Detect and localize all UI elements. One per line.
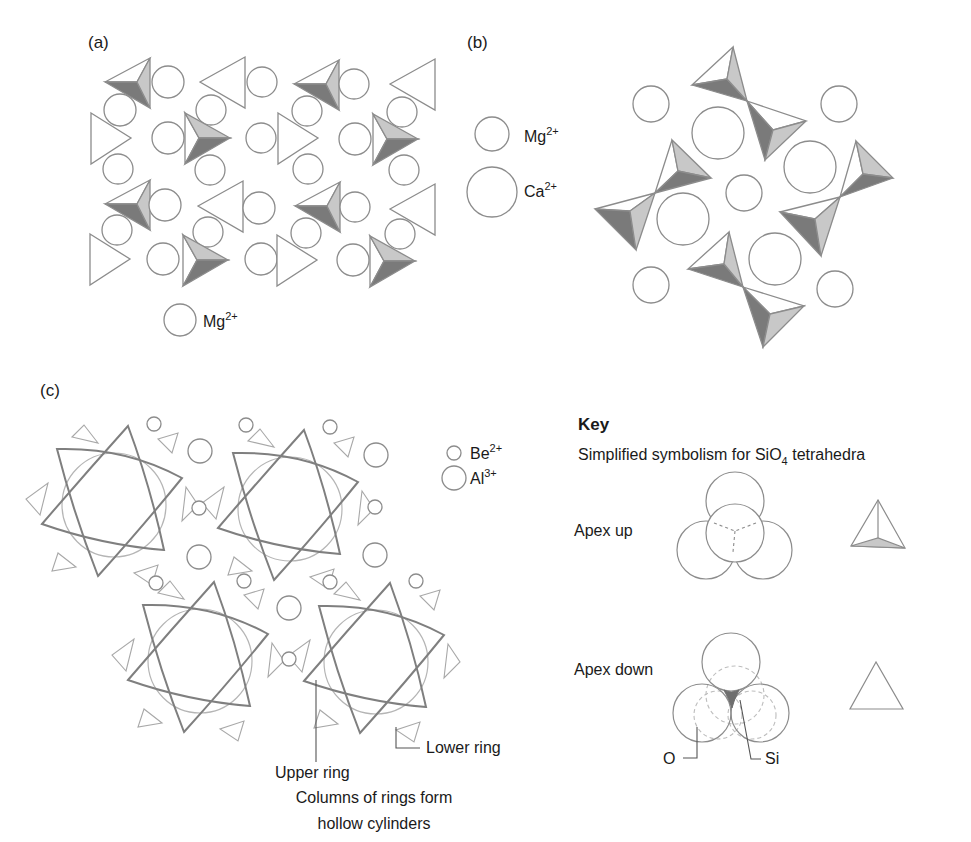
mg-ion-legend-icon: [164, 304, 196, 336]
mg-ion: [387, 97, 417, 127]
legend-ca-label: Ca2+: [524, 180, 557, 200]
mg-ion: [102, 215, 132, 245]
mg-ion: [103, 154, 133, 184]
panel-c-label: (c): [40, 381, 60, 400]
mg-ion: [633, 86, 669, 122]
be-ion: [282, 652, 296, 666]
oxygen-label: O: [663, 750, 675, 767]
lower-ring-label: Lower ring: [426, 739, 501, 756]
al-ion: [277, 596, 301, 620]
mg-ion: [633, 267, 669, 303]
panel-b-label: (b): [467, 33, 488, 52]
panel-a-legend: Mg2+: [164, 304, 238, 336]
be-ion: [147, 417, 161, 431]
apex-down-oxygen-diagram: O Si: [663, 633, 789, 767]
al-ion: [188, 439, 212, 463]
be-ion: [237, 574, 251, 588]
panel-c: (c) Be2+: [26, 381, 502, 832]
mg-ion: [726, 175, 762, 211]
be-ion: [192, 501, 206, 515]
be-ion: [239, 418, 253, 432]
six-membered-ring: [288, 582, 460, 742]
mg-ion: [385, 219, 415, 249]
al-ion: [363, 543, 387, 567]
panel-b-legend: Mg2+ Ca2+: [467, 117, 559, 217]
mg-ion: [147, 243, 179, 275]
caption-line-1: Columns of rings form: [296, 789, 453, 806]
mg-ion: [196, 95, 226, 125]
mg-ion: [149, 189, 181, 221]
mg-ion: [821, 86, 857, 122]
upper-ring-label: Upper ring: [275, 764, 350, 781]
key-title: Key: [578, 415, 610, 434]
be-ion: [149, 576, 163, 590]
legend-mg-label: Mg2+: [203, 310, 238, 330]
panel-a: (a): [88, 33, 435, 336]
ca-ion: [657, 193, 709, 245]
silicon-label: Si: [765, 750, 779, 767]
be-ion: [368, 500, 382, 514]
mg-ion-legend-icon: [475, 117, 509, 151]
apex-up-tetrahedron-icon: [851, 500, 905, 548]
panel-c-lattice: [26, 417, 460, 742]
mg-ion: [104, 94, 136, 126]
panel-a-lattice: [90, 57, 435, 287]
panel-b: (b) Mg2+ Ca2+: [467, 33, 893, 347]
mg-ion: [152, 122, 184, 154]
mg-ion: [339, 69, 369, 99]
apex-down-label: Apex down: [574, 661, 653, 678]
mg-ion: [247, 67, 277, 97]
panel-b-lattice: [595, 47, 893, 347]
panel-a-label: (a): [88, 33, 109, 52]
legend-mg-label: Mg2+: [524, 125, 559, 145]
be-ion-legend-icon: [447, 446, 461, 460]
mg-ion: [152, 66, 184, 98]
mg-ion: [389, 155, 419, 185]
be-ion: [323, 575, 337, 589]
mg-ion: [243, 192, 275, 224]
mg-ion: [246, 123, 276, 153]
six-membered-ring: [26, 425, 198, 585]
caption-line-2: hollow cylinders: [318, 815, 431, 832]
apex-up-label: Apex up: [574, 522, 633, 539]
al-ion: [187, 545, 211, 569]
apex-down-tetrahedron-icon: [850, 662, 903, 709]
mg-ion: [291, 218, 321, 248]
be-ion: [323, 420, 337, 434]
ca-ion-legend-icon: [467, 167, 517, 217]
legend-al-label: Al3+: [470, 467, 497, 487]
mg-ion: [293, 154, 323, 184]
ca-ion: [692, 107, 744, 159]
six-membered-ring: [112, 581, 284, 741]
ca-ion: [749, 233, 801, 285]
mg-ion: [245, 243, 277, 275]
silicon-atom: [724, 690, 739, 708]
silicate-structures-figure: (a): [0, 0, 971, 842]
key-panel: Key Simplified symbolism for SiO4 tetrah…: [574, 415, 905, 767]
panel-c-legend: Be2+ Al3+: [442, 442, 502, 490]
mg-ion: [817, 271, 853, 307]
legend-be-label: Be2+: [470, 442, 502, 462]
ca-ion: [784, 141, 836, 193]
mg-ion: [340, 192, 370, 222]
mg-ion: [195, 155, 225, 185]
be-ion: [409, 574, 423, 588]
mg-ion: [292, 96, 322, 126]
al-ion: [364, 443, 388, 467]
apex-up-oxygen-diagram: [677, 472, 792, 579]
six-membered-ring: [202, 429, 374, 589]
mg-ion: [337, 244, 369, 276]
al-ion-legend-icon: [442, 466, 466, 490]
key-subtitle: Simplified symbolism for SiO4 tetrahedra: [578, 446, 865, 467]
mg-ion: [339, 123, 371, 155]
